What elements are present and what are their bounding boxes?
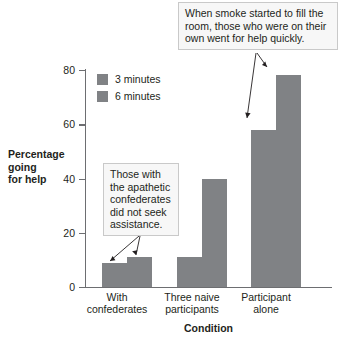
legend-swatch-6-minutes: [97, 91, 108, 102]
x-axis-title: Condition: [85, 322, 332, 334]
x-category-label-2: Three naive participants: [152, 291, 232, 315]
x-category-label-3: Participant alone: [226, 291, 306, 315]
y-axis-title-line1: Percentage: [8, 148, 80, 161]
legend-label-3-minutes: 3 minutes: [115, 74, 161, 85]
bar-group-three-naive-participants: [177, 70, 229, 287]
x-category-label-3-line2: alone: [226, 303, 306, 315]
arrow-top-to-6min: [257, 53, 267, 67]
x-category-label-1: With confederates: [77, 291, 157, 315]
y-tick-label-60: 60: [49, 119, 75, 130]
x-axis-line: [85, 287, 332, 288]
x-category-label-2-line1: Three naive: [152, 291, 232, 303]
x-category-label-1-line2: confederates: [77, 303, 157, 315]
legend: 3 minutes 6 minutes: [97, 72, 161, 106]
bar-three-naive-participants-6min: [202, 179, 227, 288]
y-axis-title-line2: going: [8, 161, 80, 174]
y-tick-label-0: 0: [49, 282, 75, 293]
bar-with-confederates-6min: [127, 257, 152, 287]
legend-label-6-minutes: 6 minutes: [115, 91, 161, 102]
y-tick-label-80: 80: [49, 65, 75, 76]
bar-group-participant-alone: [251, 70, 303, 287]
arrowhead-top-to-6min: [262, 62, 267, 67]
x-category-label-3-line1: Participant: [226, 291, 306, 303]
callout-bottom: Those with the apathetic confederates di…: [103, 163, 179, 236]
bar-participant-alone-6min: [276, 75, 301, 287]
bar-chart: 80 60 40 20 0 With confed: [0, 0, 342, 345]
x-category-label-1-line1: With: [77, 291, 157, 303]
legend-item-3-minutes: 3 minutes: [97, 72, 161, 87]
bar-three-naive-participants-3min: [177, 257, 202, 287]
callout-top: When smoke started to fill the room, tho…: [178, 2, 338, 50]
bar-with-confederates-3min: [102, 263, 127, 287]
y-axis-title-line3: for help: [8, 173, 80, 186]
x-category-label-2-line2: participants: [152, 303, 232, 315]
y-axis-title: Percentage going for help: [8, 148, 80, 186]
legend-swatch-3-minutes: [97, 74, 108, 85]
legend-item-6-minutes: 6 minutes: [97, 89, 161, 104]
bar-participant-alone-3min: [251, 130, 276, 287]
y-tick-label-20: 20: [49, 228, 75, 239]
